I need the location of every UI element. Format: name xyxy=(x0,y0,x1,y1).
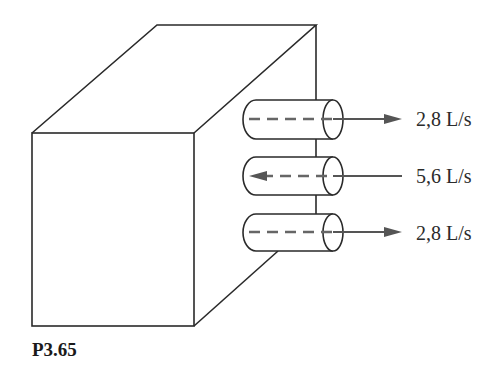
box-front-face xyxy=(32,133,194,326)
arrow-right-icon xyxy=(384,227,402,237)
flow-label-bottom: 2,8 L/s xyxy=(416,222,472,244)
pipe-middle: 5,6 L/s xyxy=(243,157,472,195)
figure-caption: P3.65 xyxy=(32,339,77,360)
pipe-bottom: 2,8 L/s xyxy=(243,214,472,251)
flow-label-middle: 5,6 L/s xyxy=(416,165,472,187)
diagram-canvas: 2,8 L/s 5,6 L/s 2,8 L/s P3.65 xyxy=(0,0,498,366)
flow-label-top: 2,8 L/s xyxy=(416,108,472,130)
arrow-right-icon xyxy=(384,114,402,124)
box-bottom-edge xyxy=(194,251,278,326)
pipe-top: 2,8 L/s xyxy=(243,100,472,139)
